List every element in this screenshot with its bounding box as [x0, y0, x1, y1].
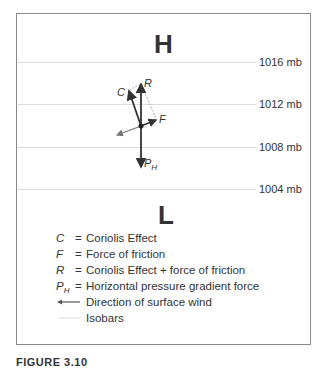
- parcel-dot: [139, 124, 144, 129]
- legend-equals: =: [75, 246, 82, 262]
- label-c: C: [117, 87, 125, 98]
- legend-item-isobars: Isobars: [56, 310, 296, 326]
- legend-text: Coriolis Effect: [86, 230, 157, 246]
- legend-item-resultant: R = Coriolis Effect + force of friction: [56, 262, 296, 278]
- legend-equals: =: [75, 230, 82, 246]
- legend-item-pressure-gradient: PH = Horizontal pressure gradient force: [56, 278, 296, 294]
- legend-text: Force of friction: [86, 246, 165, 262]
- legend-symbol-main: P: [56, 280, 64, 292]
- isobar-line-icon: [56, 310, 82, 326]
- legend-text: Direction of surface wind: [86, 294, 212, 310]
- wind-direction-arrow: [117, 126, 141, 135]
- legend: C = Coriolis Effect F = Force of frictio…: [56, 230, 296, 326]
- dashed-line-r-f: [141, 84, 156, 119]
- legend-text: Coriolis Effect + force of friction: [86, 262, 245, 278]
- low-pressure-label: L: [158, 202, 174, 228]
- legend-item-friction: F = Force of friction: [56, 246, 296, 262]
- dashed-line-c-r: [129, 84, 141, 90]
- legend-equals: =: [75, 278, 82, 294]
- coriolis-arrow: [129, 91, 141, 126]
- wind-arrow-icon: [56, 294, 82, 310]
- legend-item-wind: Direction of surface wind: [56, 294, 296, 310]
- legend-text: Horizontal pressure gradient force: [86, 278, 259, 294]
- label-r: R: [144, 78, 152, 89]
- label-ph: PH: [144, 158, 157, 172]
- label-f: F: [159, 114, 166, 125]
- legend-equals: =: [75, 262, 82, 278]
- label-ph-sub: H: [151, 163, 157, 172]
- legend-text: Isobars: [86, 310, 124, 326]
- figure-caption: FIGURE 3.10: [16, 356, 88, 368]
- legend-item-coriolis: C = Coriolis Effect: [56, 230, 296, 246]
